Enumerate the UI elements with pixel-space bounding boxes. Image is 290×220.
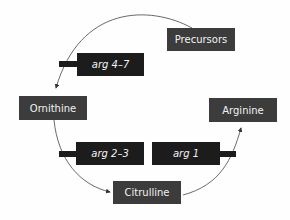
node-citrulline: Citrulline [113, 181, 181, 204]
node-ornithine: Ornithine [19, 96, 87, 120]
arginine-pathway-diagram: Precursors Ornithine Citrulline Arginine… [0, 0, 290, 220]
node-label: Arginine [222, 105, 264, 116]
gene-connector-bar [59, 61, 79, 67]
node-label: Citrulline [125, 187, 170, 198]
node-label: Ornithine [30, 103, 76, 114]
node-label: Precursors [175, 34, 228, 45]
gene-arg2-3: arg 2–3 [76, 142, 144, 165]
gene-connector-bar [218, 151, 236, 157]
node-precursors: Precursors [167, 28, 235, 51]
gene-arg4-7: arg 4–7 [77, 53, 144, 76]
gene-label: arg 4–7 [92, 59, 130, 70]
node-arginine: Arginine [209, 98, 277, 122]
gene-arg1: arg 1 [152, 142, 220, 165]
gene-label: arg 2–3 [91, 148, 129, 159]
gene-label: arg 1 [173, 148, 199, 159]
